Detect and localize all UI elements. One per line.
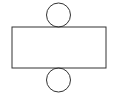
cylinder-net-diagram: [0, 0, 117, 99]
bottom-circle: [47, 68, 71, 92]
top-circle: [47, 3, 71, 27]
rectangle-lateral-surface: [12, 27, 106, 68]
